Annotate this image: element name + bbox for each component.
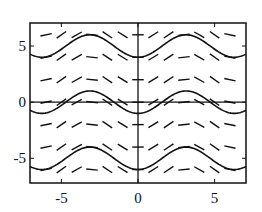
slope-segment [118,167,128,173]
slope-segment [164,144,174,150]
slope-segment [148,167,158,173]
slope-segment [224,79,235,81]
slope-segment [40,79,51,81]
slope-segment [148,54,158,60]
slope-segment [72,54,82,60]
slope-segment [210,76,219,83]
slope-segment [103,32,113,38]
slope-segment [210,54,219,61]
tick-labels: -505-505 [14,38,219,206]
slope-segment [210,144,219,151]
x-tick-label: 5 [211,190,219,206]
slope-segment [86,57,97,58]
slope-segment [164,166,174,172]
slope-segment [194,122,204,128]
slope-segment [194,167,204,173]
slope-segment [57,166,66,173]
slope-segment [164,32,174,38]
slope-segment [210,121,219,128]
slope-segment [57,121,66,128]
slope-segment [86,79,97,80]
slope-segment [148,144,158,150]
slope-segment [103,54,113,60]
slope-segment [86,169,97,170]
slope-segment [57,31,66,38]
slope-segment [148,77,158,83]
slope-segment [118,32,128,38]
slope-segment [194,54,204,60]
slope-segment [224,34,235,36]
x-tick-label: -5 [55,190,68,206]
slope-segment [178,79,189,80]
y-tick-label: 5 [19,38,27,54]
slope-segment [72,167,82,173]
x-tick-label: 0 [134,190,142,206]
slope-segment [86,124,97,125]
y-tick-label: 0 [19,94,27,110]
slope-segment [103,166,113,172]
slope-segment [57,144,66,151]
slope-segment [164,77,174,83]
slope-segment [57,76,66,83]
slope-segment [118,77,128,83]
slope-segment [148,122,158,128]
slope-segment [103,121,113,127]
slope-segment [148,32,158,38]
y-tick-label: -5 [14,150,27,166]
slope-segment [72,122,82,128]
slope-segment [224,123,235,125]
slope-segment [40,146,51,148]
slope-segment [178,124,189,125]
slope-segment [118,144,128,150]
slope-segment [57,54,66,61]
slope-field-chart: -505-505 [0,0,262,212]
slope-segment [210,166,219,173]
slope-segment [118,122,128,128]
slope-segment [178,169,189,170]
slope-segment [178,57,189,58]
slope-segment [40,123,51,125]
slope-segment [72,77,82,83]
slope-segment [210,31,219,38]
slope-segment [103,144,113,150]
slope-segment [118,54,128,60]
slope-segment [194,77,204,83]
axis-lines [30,23,246,183]
slope-segment [40,34,51,36]
slope-segment [164,121,174,127]
slope-segment [224,146,235,148]
slope-segment [164,54,174,60]
slope-segment [103,77,113,83]
